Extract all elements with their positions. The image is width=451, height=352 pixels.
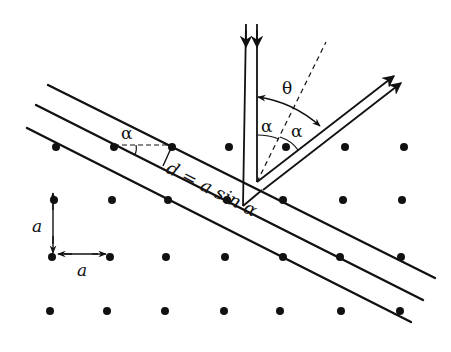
- plane-top: [48, 85, 435, 278]
- alpha-plane-label: α: [121, 123, 133, 143]
- lattice-point: [336, 253, 344, 261]
- lattice-point: [46, 307, 54, 315]
- alpha-reflected-label: α: [291, 121, 303, 141]
- lattice-point: [337, 307, 345, 315]
- lattice-point: [397, 253, 405, 261]
- incident-beam: [243, 24, 257, 206]
- lattice-point: [164, 196, 172, 204]
- lattice-a-horizontal-label: a: [77, 260, 87, 280]
- plane-bottom: [27, 128, 411, 322]
- lattice-point: [48, 253, 56, 261]
- diagram-canvas: θ α α α d = a sin α a a: [0, 0, 451, 352]
- lattice-constant-arrows: [53, 193, 106, 254]
- lattice-point: [161, 307, 169, 315]
- reflected-beam: [243, 76, 401, 206]
- lattice-a-vertical-label: a: [32, 216, 42, 236]
- lattice-point: [52, 143, 60, 151]
- lattice-point: [276, 307, 284, 315]
- lattice-point: [50, 196, 58, 204]
- lattice-point: [279, 196, 287, 204]
- lattice-point: [225, 143, 233, 151]
- lattice-point: [106, 253, 114, 261]
- bragg-diagram: θ α α α d = a sin α a a: [0, 0, 451, 352]
- lattice-point: [396, 307, 404, 315]
- lattice-point: [279, 253, 287, 261]
- lattice-point: [341, 143, 349, 151]
- lattice-point: [110, 143, 118, 151]
- lattice-point: [108, 196, 116, 204]
- lattice-point: [162, 253, 170, 261]
- alpha-plane-arc: [135, 145, 136, 154]
- alpha-incident-label: α: [261, 116, 273, 136]
- theta-label: θ: [282, 78, 292, 98]
- lattice-point: [400, 143, 408, 151]
- lattice-point: [103, 307, 111, 315]
- lattice-point: [398, 196, 406, 204]
- lattice-point: [339, 196, 347, 204]
- normal-line: [257, 42, 326, 182]
- lattice-point: [282, 143, 290, 151]
- lattice-point: [220, 307, 228, 315]
- lattice-point: [221, 253, 229, 261]
